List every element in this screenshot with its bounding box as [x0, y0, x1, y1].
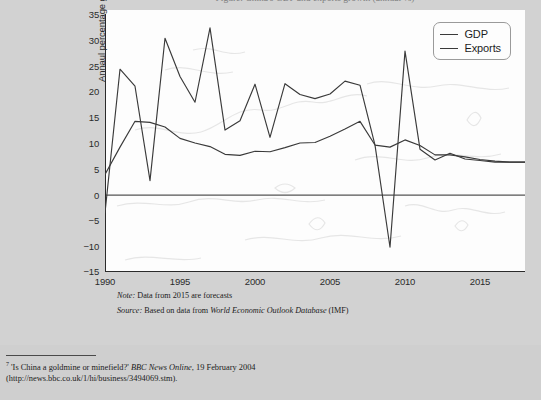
figure-note-body: Data from 2015 are forecasts: [137, 291, 232, 300]
chart-legend[interactable]: GDP Exports: [433, 22, 511, 60]
ytick-label-neg10: −10: [77, 241, 99, 252]
xtick-label-2005: 2005: [310, 276, 350, 287]
xtick-label-1995: 1995: [160, 276, 200, 287]
figure-source-pre: Based on data from: [144, 306, 208, 315]
figure-card: Annaul percentage growth: [105, 10, 525, 272]
xtick-label-2000: 2000: [235, 276, 275, 287]
legend-item-gdp[interactable]: GDP: [440, 27, 501, 41]
xtick-label-1990: 1990: [85, 276, 125, 287]
ytick-label-5: 5: [77, 164, 99, 175]
xtick-label-2015: 2015: [460, 276, 500, 287]
figure-source: Source: Based on data from World Economi…: [117, 306, 349, 315]
figure-source-post: (IMF): [329, 306, 349, 315]
ytick-label-35: 35: [77, 9, 99, 20]
figure-source-italic: World Economic Outlook Database: [210, 306, 326, 315]
ytick-label-30: 30: [77, 35, 99, 46]
figure-source-prefix: Source:: [117, 306, 142, 315]
footnote-publication: BBC News Online: [131, 363, 192, 372]
ytick-label-15: 15: [77, 112, 99, 123]
legend-label-exports: Exports: [464, 42, 501, 54]
figure-note-prefix: Note:: [117, 291, 135, 300]
paper-sheet: Figure: China's GDP and exports growth (…: [0, 0, 541, 345]
ytick-label-10: 10: [77, 138, 99, 149]
ytick-label-20: 20: [77, 86, 99, 97]
figure-title-clipped: Figure: China's GDP and exports growth (…: [105, 0, 525, 7]
footnote-marker: 7: [6, 361, 9, 367]
series-line-exports: [105, 28, 525, 247]
footnote-quote: 'Is China a goldmine or minefield?': [11, 363, 129, 372]
footnote-date: , 19 February 2004: [192, 363, 256, 372]
map-watermark: [117, 48, 509, 260]
xtick-label-2010: 2010: [385, 276, 425, 287]
footnote-rule: [6, 355, 96, 356]
legend-item-exports[interactable]: Exports: [440, 41, 501, 55]
figure-note: Note: Data from 2015 are forecasts: [117, 291, 232, 300]
legend-swatch-gdp: [440, 34, 458, 35]
footnote-line-1: 7 'Is China a goldmine or minefield?' BB…: [6, 361, 256, 372]
ytick-label-0: 0: [77, 190, 99, 201]
footnote-line-2: (http://news.bbc.co.uk/1/hi/business/349…: [6, 374, 177, 383]
page-background: Figure: China's GDP and exports growth (…: [0, 0, 541, 400]
legend-label-gdp: GDP: [464, 28, 488, 40]
legend-swatch-exports: [440, 48, 458, 49]
figure-title: Figure: China's GDP and exports growth (…: [105, 0, 525, 3]
ytick-label-25: 25: [77, 61, 99, 72]
ytick-label-neg5: −5: [77, 215, 99, 226]
series-line-gdp: [105, 121, 525, 174]
